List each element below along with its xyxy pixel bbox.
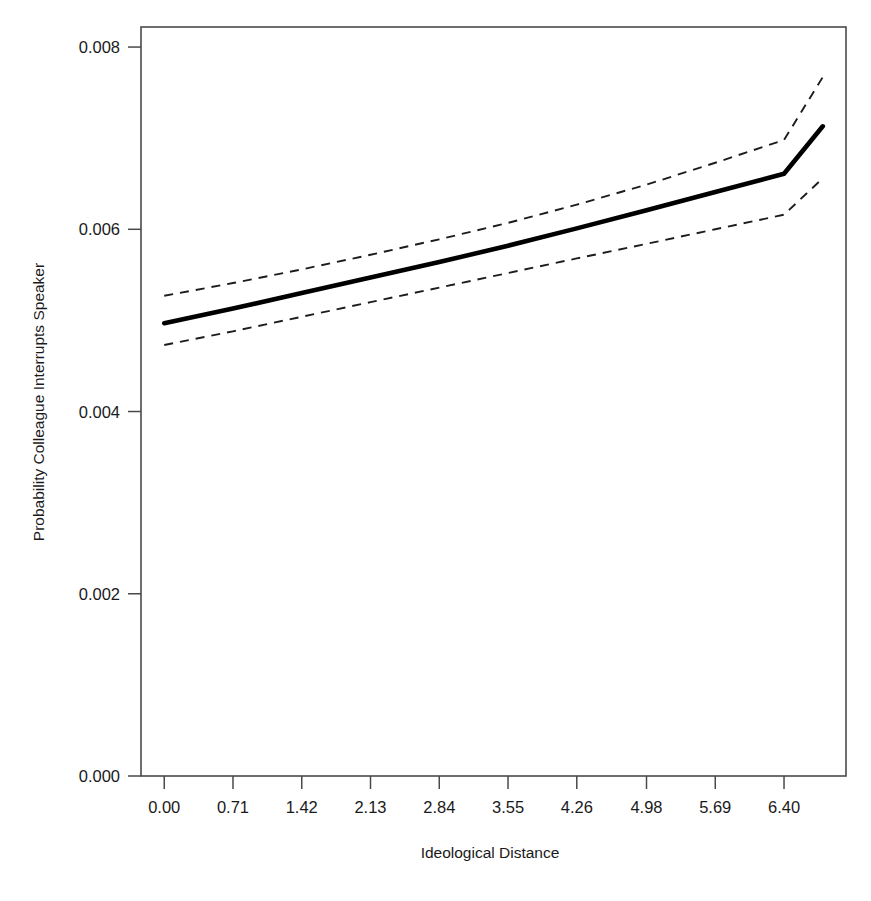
confidence-band-line-2 <box>164 178 823 345</box>
x-tick-label-0: 0.00 <box>148 798 180 816</box>
chart-page: 0.000.711.422.132.843.554.264.985.696.40… <box>0 0 871 901</box>
y-tick-label-1: 0.002 <box>79 585 120 603</box>
y-axis-title: Probability Colleague Interrupts Speaker <box>30 263 47 541</box>
line-chart: 0.000.711.422.132.843.554.264.985.696.40… <box>0 0 871 901</box>
data-series-group <box>164 77 823 345</box>
x-tick-label-4: 2.84 <box>423 798 455 816</box>
y-tick-label-0: 0.000 <box>79 767 120 785</box>
x-tick-label-6: 4.26 <box>561 798 593 816</box>
prediction-line <box>164 126 823 323</box>
x-axis-tick-labels: 0.000.711.422.132.843.554.264.985.696.40 <box>148 798 800 816</box>
plot-frame <box>141 27 846 776</box>
y-axis-ticks <box>128 47 141 776</box>
y-tick-label-4: 0.008 <box>79 38 120 56</box>
x-tick-label-5: 3.55 <box>492 798 524 816</box>
x-tick-label-9: 6.40 <box>768 798 800 816</box>
x-tick-label-3: 2.13 <box>354 798 386 816</box>
x-axis-title: Ideological Distance <box>421 844 560 861</box>
x-tick-label-2: 1.42 <box>286 798 318 816</box>
x-tick-label-8: 5.69 <box>699 798 731 816</box>
x-tick-label-1: 0.71 <box>217 798 249 816</box>
confidence-band-line-1 <box>164 77 823 296</box>
y-tick-label-2: 0.004 <box>79 403 120 421</box>
y-axis-tick-labels: 0.0000.0020.0040.0060.008 <box>79 38 120 785</box>
x-axis-ticks <box>164 776 784 789</box>
y-tick-label-3: 0.006 <box>79 220 120 238</box>
x-tick-label-7: 4.98 <box>630 798 662 816</box>
